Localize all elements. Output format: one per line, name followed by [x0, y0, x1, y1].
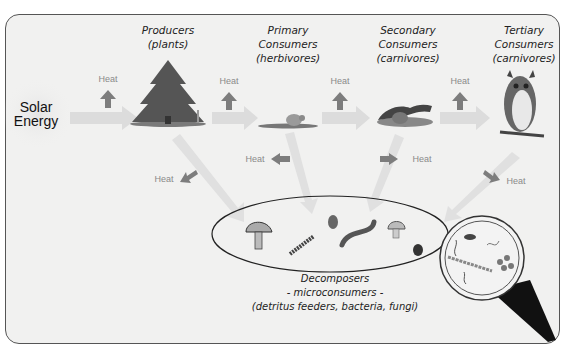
tree-illustration [130, 60, 206, 127]
primary-title-2: Consumers [256, 37, 320, 51]
tertiary-consumers-label: Tertiary Consumers (carnivores) [492, 23, 555, 65]
solar-label-line1: Solar [14, 100, 58, 114]
heat-label: Heat [412, 154, 431, 164]
secondary-subtitle: (carnivores) [376, 51, 439, 65]
decomposers-detail: (detritus feeders, bacteria, fungi) [252, 300, 419, 314]
tertiary-title-1: Tertiary [492, 23, 555, 37]
producers-title: Producers [142, 23, 194, 37]
primary-title-1: Primary [256, 23, 320, 37]
weasel-illustration [377, 105, 433, 127]
tertiary-title-2: Consumers [492, 37, 555, 51]
decomposer-ellipse [212, 196, 448, 272]
decomposers-title: Decomposers [252, 272, 419, 286]
secondary-title-2: Consumers [376, 37, 439, 51]
solar-label-line2: Energy [14, 114, 58, 128]
decomposers-label: Decomposers - microconsumers - (detritus… [252, 272, 419, 314]
decomposer-organisms [246, 215, 423, 256]
heat-label: Heat [98, 74, 117, 84]
solar-energy-label: Solar Energy [14, 100, 58, 128]
owl-illustration [500, 70, 544, 136]
producers-subtitle: (plants) [142, 37, 194, 51]
primary-consumers-label: Primary Consumers (herbivores) [256, 23, 320, 65]
heat-label: Heat [506, 176, 525, 186]
heat-label: Heat [219, 76, 238, 86]
heat-side-arrows [180, 153, 500, 183]
decomposer-flow-arrows [172, 132, 520, 222]
heat-label: Heat [154, 174, 173, 184]
primary-subtitle: (herbivores) [256, 51, 320, 65]
secondary-consumers-label: Secondary Consumers (carnivores) [376, 23, 439, 65]
decomposers-subtitle: - microconsumers - [252, 286, 419, 300]
heat-label: Heat [450, 76, 469, 86]
magnifier-illustration [440, 216, 556, 342]
mouse-illustration [258, 114, 318, 129]
tertiary-subtitle: (carnivores) [492, 51, 555, 65]
secondary-title-1: Secondary [376, 23, 439, 37]
heat-label: Heat [330, 76, 349, 86]
producers-label: Producers (plants) [142, 23, 194, 51]
heat-label: Heat [245, 154, 264, 164]
